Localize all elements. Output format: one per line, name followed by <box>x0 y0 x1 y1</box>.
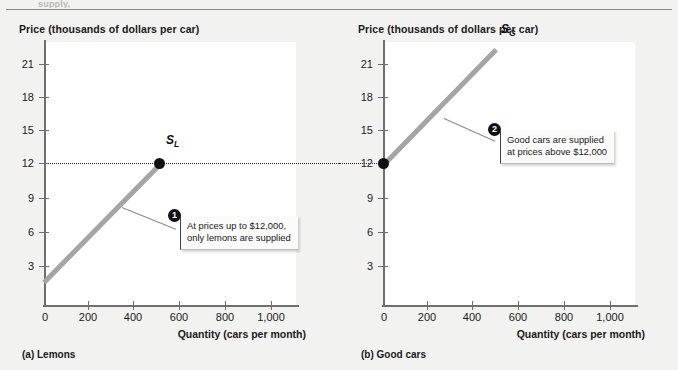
x-axis-line <box>382 305 638 307</box>
x-label-800: 800 <box>202 312 248 323</box>
y-tick-3 <box>39 266 49 267</box>
y-label-15: 15 <box>347 125 373 136</box>
y-label-9: 9 <box>8 193 34 204</box>
x-tick-1000 <box>610 301 611 310</box>
x-axis-title: Quantity (cars per month) <box>178 328 306 340</box>
x-tick-600 <box>179 301 180 310</box>
x-label-0: 0 <box>361 312 407 323</box>
curve-label-lemons: SL <box>166 133 179 149</box>
y-tick-18 <box>378 97 388 98</box>
panel-caption-lemons: (a) Lemons <box>22 349 75 360</box>
y-label-18: 18 <box>347 92 373 103</box>
annotation-callout-1-line-2: only lemons are supplied <box>187 232 291 244</box>
x-label-400: 400 <box>110 312 156 323</box>
x-label-800: 800 <box>541 312 587 323</box>
x-tick-400 <box>472 301 473 310</box>
x-label-400: 400 <box>449 312 495 323</box>
x-label-0: 0 <box>22 312 68 323</box>
y-axis-title: Price (thousands of dollars per car) <box>19 23 199 35</box>
x-label-1000: 1,000 <box>248 312 294 323</box>
x-label-200: 200 <box>404 312 450 323</box>
x-axis-line <box>43 305 299 307</box>
curve-label-good-cars-sub: G <box>509 28 516 38</box>
panel-lemons: Price (thousands of dollars per car) 21 … <box>0 0 339 370</box>
endpoint-dot-lemons <box>154 158 165 169</box>
x-label-600: 600 <box>495 312 541 323</box>
y-tick-9 <box>378 198 388 199</box>
annotation-callout-1-line-1: At prices up to $12,000, <box>187 220 291 232</box>
plot-area-lemons <box>44 42 296 305</box>
y-label-21: 21 <box>8 59 34 70</box>
x-label-200: 200 <box>65 312 111 323</box>
y-label-12: 12 <box>8 158 34 169</box>
y-label-6: 6 <box>347 227 373 238</box>
y-label-21: 21 <box>347 59 373 70</box>
y-tick-21 <box>39 64 49 65</box>
panel-good-cars: Price (thousands of dollars per car) 21 … <box>339 0 678 370</box>
x-tick-1000 <box>271 301 272 310</box>
reference-line-price-12 <box>48 163 339 164</box>
x-axis-title: Quantity (cars per month) <box>517 328 645 340</box>
curve-label-lemons-sub: L <box>174 139 179 149</box>
y-tick-15 <box>39 130 49 131</box>
curve-label-lemons-letter: S <box>166 133 174 147</box>
annotation-callout-1: At prices up to $12,000, only lemons are… <box>180 216 298 250</box>
x-label-1000: 1,000 <box>587 312 633 323</box>
annotation-callout-2-line-2: at prices above $12,000 <box>507 146 607 158</box>
x-tick-800 <box>564 301 565 310</box>
x-tick-200 <box>88 301 89 310</box>
curve-label-good-cars: SG <box>501 22 516 38</box>
x-tick-400 <box>133 301 134 310</box>
y-label-9: 9 <box>347 193 373 204</box>
y-tick-21 <box>378 64 388 65</box>
annotation-callout-2-line-1: Good cars are supplied <box>507 134 607 146</box>
y-tick-6 <box>378 232 388 233</box>
y-label-3: 3 <box>347 261 373 272</box>
annotation-callout-2: Good cars are supplied at prices above $… <box>500 130 614 164</box>
y-tick-6 <box>39 232 49 233</box>
plot-area-good-cars <box>383 42 635 305</box>
y-tick-3 <box>378 266 388 267</box>
x-tick-800 <box>225 301 226 310</box>
x-tick-200 <box>427 301 428 310</box>
y-label-3: 3 <box>8 261 34 272</box>
figure-container: supply, Price (thousands of dollars per … <box>0 0 678 370</box>
x-label-600: 600 <box>156 312 202 323</box>
y-label-18: 18 <box>8 92 34 103</box>
x-tick-600 <box>518 301 519 310</box>
y-label-15: 15 <box>8 125 34 136</box>
y-tick-15 <box>378 130 388 131</box>
origin-dot-good-cars <box>378 158 389 169</box>
curve-label-good-cars-letter: S <box>501 22 509 36</box>
y-label-6: 6 <box>8 227 34 238</box>
y-tick-18 <box>39 97 49 98</box>
panel-caption-good-cars: (b) Good cars <box>361 349 426 360</box>
y-tick-9 <box>39 198 49 199</box>
